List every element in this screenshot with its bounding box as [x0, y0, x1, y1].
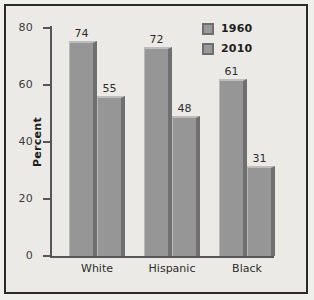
x-category-label-white: White	[81, 262, 113, 275]
bar-black-2010: 31	[247, 166, 275, 256]
bar-value-white-1960: 74	[75, 27, 89, 40]
bar-black-1960: 61	[219, 79, 247, 256]
bar-value-hispanic-1960: 72	[150, 33, 164, 46]
bar-hispanic-2010: 48	[172, 116, 200, 256]
y-tick-0: 0	[43, 255, 50, 257]
x-category-label-black: Black	[232, 262, 262, 275]
x-axis-line	[50, 256, 274, 258]
y-tick-label-80: 80	[19, 21, 33, 34]
y-tick-label-60: 60	[19, 78, 33, 91]
legend-label-2010: 2010	[221, 42, 252, 55]
y-tick-20: 20	[43, 198, 50, 200]
bar-white-2010: 55	[97, 96, 125, 256]
legend-label-1960: 1960	[221, 22, 252, 35]
bar-hispanic-1960: 72	[144, 47, 172, 256]
y-tick-80: 80	[43, 27, 50, 29]
y-tick-label-20: 20	[19, 192, 33, 205]
x-category-label-hispanic: Hispanic	[149, 262, 196, 275]
y-tick-40: 40	[43, 141, 50, 143]
bar-value-white-2010: 55	[103, 82, 117, 95]
y-tick-label-0: 0	[26, 249, 33, 262]
bar-value-black-1960: 61	[225, 65, 239, 78]
chart-frame: Percent 0 20 40 60 80 74 55 72 48	[4, 4, 308, 294]
legend-swatch-icon-1960	[202, 23, 214, 35]
bar-value-hispanic-2010: 48	[178, 102, 192, 115]
legend-item-2010: 2010	[202, 42, 252, 55]
y-tick-label-40: 40	[19, 135, 33, 148]
bar-white-1960: 74	[69, 41, 97, 256]
legend-item-1960: 1960	[202, 22, 252, 35]
y-tick-60: 60	[43, 84, 50, 86]
bar-value-black-2010: 31	[253, 152, 267, 165]
legend-swatch-icon-2010	[202, 43, 214, 55]
legend: 1960 2010	[202, 22, 252, 62]
